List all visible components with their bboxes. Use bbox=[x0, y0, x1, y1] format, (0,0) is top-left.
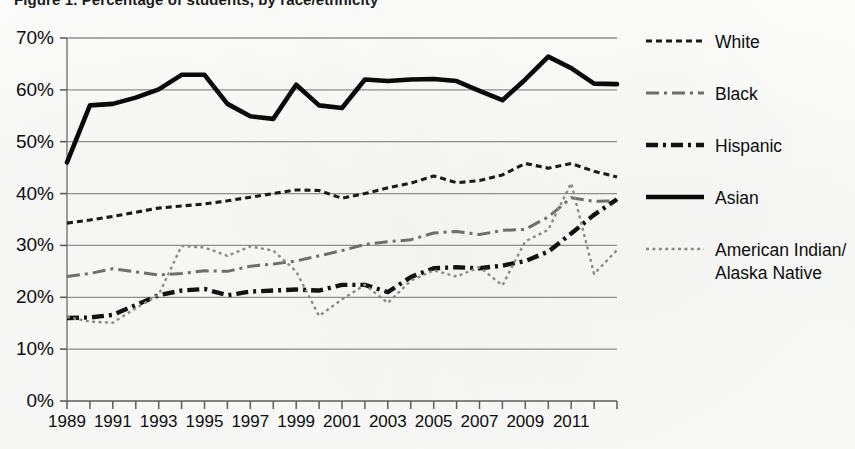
x-axis-tick-label: 1991 bbox=[94, 412, 132, 432]
y-axis-tick-label: 10% bbox=[0, 338, 54, 360]
x-axis-tick-label: 2009 bbox=[506, 412, 544, 432]
y-axis-tick-label: 70% bbox=[0, 27, 54, 49]
y-axis-tick-label: 60% bbox=[0, 79, 54, 101]
x-axis-tick-label: 2005 bbox=[415, 412, 453, 432]
legend-line-swatch bbox=[646, 134, 704, 154]
x-axis-tick-label: 1995 bbox=[186, 412, 224, 432]
legend-line-swatch bbox=[646, 82, 704, 102]
x-axis-tick-label: 2007 bbox=[461, 412, 499, 432]
legend-label: American Indian/Alaska Native bbox=[715, 238, 846, 285]
chart-legend: WhiteBlackHispanicAsianAmerican Indian/A… bbox=[646, 30, 851, 314]
legend-item[interactable]: American Indian/Alaska Native bbox=[646, 238, 851, 285]
legend-line-swatch bbox=[646, 186, 704, 206]
gridlines bbox=[67, 38, 617, 349]
y-axis-tick-label: 40% bbox=[0, 183, 54, 205]
legend-item[interactable]: Hispanic bbox=[646, 134, 851, 158]
x-tick-marks bbox=[67, 401, 617, 409]
legend-item[interactable]: Black bbox=[646, 82, 851, 106]
legend-item[interactable]: White bbox=[646, 30, 851, 54]
y-axis-tick-label: 0% bbox=[0, 390, 54, 412]
y-tick-marks bbox=[60, 38, 67, 401]
x-axis-tick-label: 1993 bbox=[140, 412, 178, 432]
x-axis-tick-label: 1989 bbox=[48, 412, 86, 432]
series-line-asian bbox=[67, 57, 617, 163]
x-axis-tick-label: 2003 bbox=[369, 412, 407, 432]
series-line-american-indian bbox=[67, 183, 617, 323]
series-group bbox=[67, 57, 617, 323]
x-axis-tick-label: 2011 bbox=[553, 412, 590, 432]
series-line-hispanic bbox=[67, 199, 617, 318]
legend-label: Black bbox=[715, 82, 758, 106]
legend-label: Hispanic bbox=[715, 134, 782, 158]
legend-line-swatch bbox=[646, 30, 704, 50]
legend-line-swatch bbox=[646, 238, 704, 258]
legend-label: White bbox=[715, 30, 760, 54]
x-axis-tick-label: 2001 bbox=[323, 412, 361, 432]
x-axis-tick-label: 1999 bbox=[277, 412, 315, 432]
legend-item[interactable]: Asian bbox=[646, 186, 851, 210]
y-axis-tick-label: 50% bbox=[0, 131, 54, 153]
y-axis-tick-label: 20% bbox=[0, 286, 54, 308]
x-axis-tick-label: 1997 bbox=[231, 412, 269, 432]
legend-label: Asian bbox=[715, 186, 759, 210]
y-axis-tick-label: 30% bbox=[0, 234, 54, 256]
